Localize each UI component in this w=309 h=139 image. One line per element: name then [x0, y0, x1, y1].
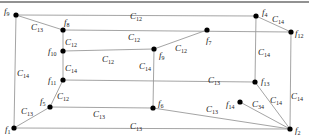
- node-f11: [60, 77, 65, 82]
- edge-line: [290, 32, 291, 129]
- edge-label: C14: [17, 68, 29, 79]
- graph-diagram: C12C13C12C12C12C14C12C14C14C14C14C13C12C…: [0, 0, 309, 139]
- node-f10: [60, 48, 65, 53]
- edge-label: C12: [65, 37, 77, 48]
- edge-line: [153, 108, 290, 129]
- node-f5: [47, 104, 52, 109]
- node-f1: [11, 125, 16, 130]
- edge-label: C12: [128, 32, 140, 43]
- edge-label: C13: [21, 106, 33, 117]
- edge-label: C13: [130, 121, 142, 132]
- edge-label: C14: [258, 47, 270, 58]
- edge-line: [255, 16, 256, 82]
- node-label: f4: [262, 7, 268, 18]
- edge-label: C13: [31, 22, 43, 33]
- edge-label: C14: [270, 95, 282, 106]
- node-label: f12: [295, 28, 304, 39]
- node-f14: [237, 99, 242, 104]
- edge-line: [63, 30, 291, 32]
- node-label: f10: [48, 46, 57, 57]
- node-f13: [252, 79, 257, 84]
- node-f9: [13, 12, 18, 17]
- node-label: f13: [261, 76, 270, 87]
- node-label: f5: [40, 96, 46, 107]
- node-f7: [204, 27, 209, 32]
- node-label: f1: [5, 124, 11, 135]
- edge-line: [63, 80, 255, 82]
- node-f4: [253, 13, 258, 18]
- edge-label: C14: [65, 63, 77, 74]
- edge-label: C14: [139, 61, 151, 72]
- edge-label: C12: [175, 43, 187, 54]
- node-f8: [60, 27, 65, 32]
- node-label: f6: [158, 98, 164, 109]
- edge-line: [153, 49, 154, 108]
- node-f6: [150, 105, 155, 110]
- nodes: [11, 12, 293, 131]
- node-label: f8: [64, 17, 70, 28]
- node-label: f11: [48, 75, 56, 86]
- edge-label: C14: [291, 91, 303, 102]
- edge-label: C13: [93, 109, 105, 120]
- edge-line: [63, 49, 154, 51]
- node-label: f9: [159, 50, 165, 61]
- edge-line: [14, 128, 290, 129]
- edge-label: C13: [208, 75, 220, 86]
- edge-label: C12: [130, 11, 142, 22]
- node-label: f14: [226, 99, 235, 110]
- edge-label: C12: [102, 54, 114, 65]
- node-label: f2: [295, 125, 301, 136]
- edge-label: C12: [57, 91, 69, 102]
- edge-label: C34: [252, 99, 264, 110]
- node-label: f7: [206, 35, 212, 46]
- edge-line: [50, 107, 153, 108]
- edges: [14, 15, 291, 129]
- node-f12: [288, 29, 293, 34]
- node-label: f9: [4, 6, 10, 17]
- node-f9b: [151, 46, 156, 51]
- edge-label: C13: [206, 104, 218, 115]
- node-f2: [287, 126, 292, 131]
- edge-line: [14, 15, 16, 128]
- edge-label: C14: [272, 14, 284, 25]
